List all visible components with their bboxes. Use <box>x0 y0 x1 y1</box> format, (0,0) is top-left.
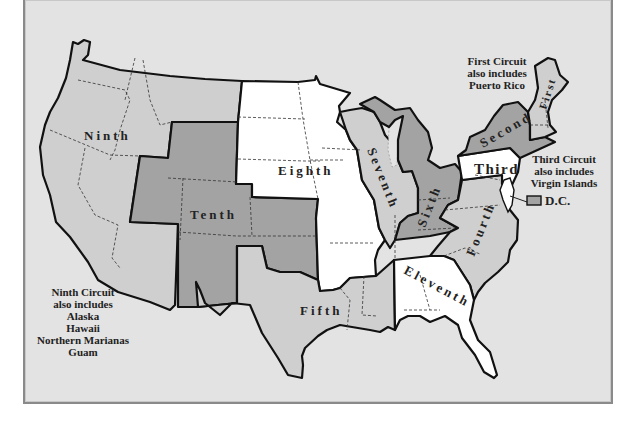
circuit-map: Ninth Tenth Eighth Fifth Seventh Sixth F… <box>0 0 636 428</box>
dc-label: D.C. <box>545 193 570 208</box>
label-ninth: Ninth <box>84 128 131 143</box>
note-first-line-2: also includes <box>467 67 527 79</box>
note-third-line-1: Third Circuit <box>532 153 596 165</box>
note-third-circuit: Third Circuit also includes Virgin Islan… <box>531 153 598 189</box>
note-ninth-line-4: Hawaii <box>66 322 100 334</box>
note-third-line-2: also includes <box>534 165 594 177</box>
dc-legend: D.C. <box>510 193 570 208</box>
note-ninth-line-2: also includes <box>53 298 113 310</box>
note-ninth-line-5: Northern Marianas <box>37 334 130 346</box>
label-third: Third <box>474 161 519 177</box>
note-ninth-line-3: Alaska <box>67 310 100 322</box>
note-third-line-3: Virgin Islands <box>531 177 598 189</box>
dc-swatch <box>527 196 541 205</box>
label-tenth: Tenth <box>190 207 237 222</box>
note-first-line-1: First Circuit <box>468 55 527 67</box>
note-ninth-circuit: Ninth Circuit also includes Alaska Hawai… <box>37 286 130 358</box>
note-first-line-3: Puerto Rico <box>469 79 525 91</box>
note-ninth-line-1: Ninth Circuit <box>51 286 114 298</box>
label-fifth: Fifth <box>300 303 342 318</box>
note-ninth-line-6: Guam <box>68 346 97 358</box>
note-first-circuit: First Circuit also includes Puerto Rico <box>467 55 527 91</box>
label-eighth: Eighth <box>278 163 334 178</box>
